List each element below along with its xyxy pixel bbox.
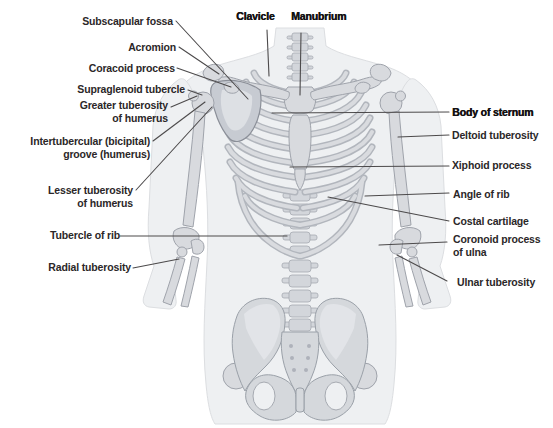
label-lesser-tuberosity-of-humerus: Lesser tuberosity of humerus (48, 184, 133, 210)
label-body-of-sternum: Body of sternum (452, 106, 533, 119)
label-deltoid-tuberosity: Deltoid tuberosity (452, 129, 539, 142)
label-clavicle: Clavicle (236, 10, 275, 23)
sternum-body-bone (289, 115, 311, 169)
label-coracoid-process: Coracoid process (89, 62, 175, 75)
label-acromion: Acromion (128, 41, 176, 54)
pubic-symphysis (296, 388, 304, 412)
label-supraglenoid-tubercle: Supraglenoid tubercle (77, 83, 185, 96)
label-costal-cartilage: Costal cartilage (453, 215, 529, 228)
label-manubrium: Manubrium (291, 10, 346, 23)
label-subscapular-fossa: Subscapular fossa (82, 15, 173, 28)
label-intertubercular-groove: Intertubercular (bicipital) groove (hume… (30, 135, 150, 161)
label-ulnar-tuberosity: Ulnar tuberosity (457, 276, 535, 289)
skeleton-illustration (0, 0, 553, 428)
label-tubercle-of-rib: Tubercle of rib (50, 229, 120, 242)
label-angle-of-rib: Angle of rib (453, 188, 510, 201)
label-xiphoid-process: Xiphoid process (452, 159, 531, 172)
label-greater-tuberosity-of-humerus: Greater tuberosity of humerus (80, 99, 168, 125)
label-coronoid-process-of-ulna: Coronoid process of ulna (453, 233, 540, 259)
anatomy-figure: Subscapular fossa Acromion Coracoid proc… (0, 0, 553, 428)
label-radial-tuberosity: Radial tuberosity (48, 261, 131, 274)
